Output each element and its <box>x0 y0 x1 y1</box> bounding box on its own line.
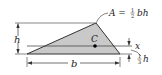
offset-h-label: h <box>143 54 149 64</box>
base-label: b <box>71 58 77 69</box>
area-label-suffix: bh <box>137 8 149 18</box>
area-fraction-denominator: 2 <box>131 13 134 19</box>
area-leader-line <box>96 13 108 23</box>
centroid-label: C <box>91 34 98 44</box>
x-axis-label: x <box>135 41 140 51</box>
offset-fraction-denominator: 3 <box>138 59 141 65</box>
centroid-dot <box>93 44 97 48</box>
area-label-prefix: A = <box>108 8 126 18</box>
height-label: h <box>14 34 20 45</box>
triangle-shape <box>27 23 120 54</box>
triangle-diagram: h x C b 1 3 h A = 1 2 bh <box>0 0 162 75</box>
